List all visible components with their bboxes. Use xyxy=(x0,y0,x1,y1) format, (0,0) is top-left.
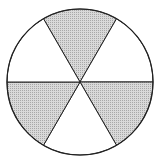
fraction-circle-diagram xyxy=(0,0,161,164)
sectors-group xyxy=(7,9,153,155)
